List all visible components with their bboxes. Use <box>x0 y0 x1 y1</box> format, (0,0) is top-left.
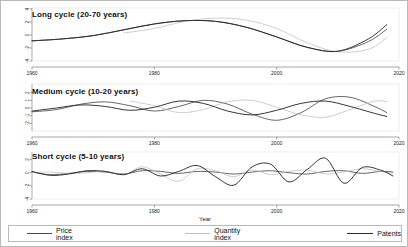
legend-swatch-price-index <box>27 233 52 234</box>
y-tick-label: 0 <box>25 171 30 174</box>
x-tick-label: 2000 <box>271 208 282 214</box>
y-tick-label: 4 <box>25 7 30 10</box>
x-tick-label: 2020 <box>393 140 404 146</box>
series-line-patents <box>32 20 387 51</box>
x-tick-label: 1960 <box>26 70 37 76</box>
y-tick-label: 2 <box>25 20 30 23</box>
legend-label-price-index: Price index <box>56 227 89 241</box>
x-tick-label: 1960 <box>26 208 37 214</box>
series-line-quantity-index <box>32 167 393 182</box>
cycle-decomposition-figure: -4-20241960198020002020 -2-1012196019802… <box>0 0 408 247</box>
y-tick-label: -4 <box>25 59 30 64</box>
panel-title-short-cycle: Short cycle (5-10 years) <box>32 152 124 161</box>
y-tick-label: 0 <box>25 106 30 109</box>
x-tick-label: 1980 <box>149 208 160 214</box>
x-tick-label: 1960 <box>26 140 37 146</box>
x-axis-label: Year <box>1 216 408 222</box>
legend-item-price-index: Price index <box>27 227 89 241</box>
x-tick-label: 2020 <box>393 70 404 76</box>
legend-label-patents: Patents <box>377 230 401 237</box>
x-tick-label: 2000 <box>271 140 282 146</box>
series-line-price-index <box>32 97 387 121</box>
legend-item-quantity-index: Quantity index <box>185 227 257 241</box>
legend: Price index Quantity index Patents <box>8 225 402 242</box>
legend-swatch-patents <box>347 233 373 234</box>
y-tick-label: -2 <box>25 183 30 188</box>
legend-item-patents: Patents <box>347 230 401 237</box>
y-tick-label: 2 <box>25 91 30 94</box>
y-tick-label: 1 <box>25 99 30 102</box>
y-tick-label: -4 <box>25 197 30 202</box>
x-tick-label: 2020 <box>393 208 404 214</box>
x-tick-label: 1980 <box>149 70 160 76</box>
x-tick-label: 1980 <box>149 140 160 146</box>
series-line-price-index <box>32 20 387 51</box>
panel-title-long-cycle: Long cycle (20-70 years) <box>32 10 127 19</box>
legend-label-quantity-index: Quantity index <box>214 227 257 241</box>
legend-swatch-quantity-index <box>185 233 210 234</box>
y-tick-label: -2 <box>25 46 30 51</box>
panel-title-medium-cycle: Medium cycle (10-20 years) <box>32 87 138 96</box>
y-tick-label: 2 <box>25 158 30 161</box>
y-tick-label: -1 <box>25 113 30 118</box>
x-tick-label: 2000 <box>271 70 282 76</box>
y-tick-label: 0 <box>25 33 30 36</box>
y-tick-label: -2 <box>25 121 30 126</box>
